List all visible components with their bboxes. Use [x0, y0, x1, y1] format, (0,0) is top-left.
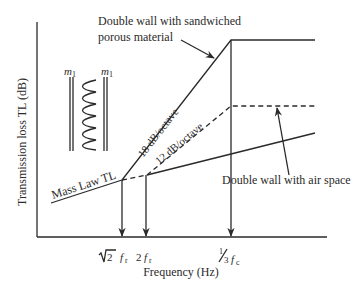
air-space-callout: Double wall with air space [222, 173, 351, 187]
mass-left-label: m1 [64, 65, 76, 79]
porous-callout-line2: porous material [98, 30, 174, 44]
tick-2-fr: 2 f r [136, 251, 152, 265]
svg-text:2: 2 [136, 251, 142, 263]
svg-text:3: 3 [224, 255, 229, 265]
double-wall-illustration: m1 m1 [64, 65, 113, 151]
porous-callout-arrow [181, 40, 214, 58]
svg-text:r: r [125, 256, 128, 265]
svg-text:2: 2 [107, 251, 113, 263]
porous-callout-line1: Double wall with sandwiched [98, 14, 241, 28]
x-axis-label: Frequency (Hz) [143, 265, 219, 279]
mass-right-label: m1 [101, 65, 113, 79]
transmission-loss-diagram: Transmission loss TL (dB) Frequency (Hz)… [0, 0, 361, 292]
svg-text:1: 1 [219, 247, 223, 256]
svg-text:c: c [236, 258, 240, 267]
svg-text:r: r [149, 256, 152, 265]
tick-sqrt2-fr: 2 f r [99, 250, 128, 265]
y-axis-label: Transmission loss TL (dB) [15, 78, 29, 206]
tick-third-fc: 1 3 f c [219, 247, 240, 267]
porous-material-icon [83, 80, 97, 150]
